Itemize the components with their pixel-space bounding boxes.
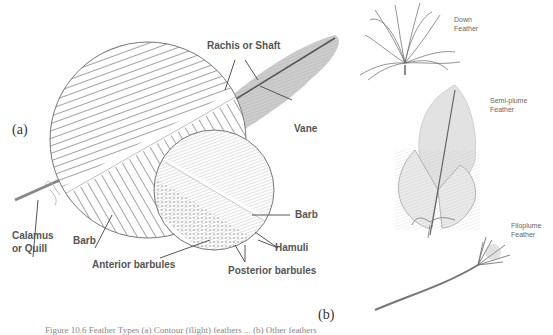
label-calamus-line1: Calamus bbox=[12, 230, 54, 241]
label-barb-left: Barb bbox=[73, 235, 96, 246]
label-rachis-or-shaft: Rachis or Shaft bbox=[207, 40, 280, 51]
label-posterior-barbules: Posterior barbules bbox=[228, 265, 316, 276]
panel-b-label: (b) bbox=[318, 307, 334, 323]
calamus-drawing bbox=[15, 180, 60, 200]
filoplume-feather-drawing bbox=[375, 237, 510, 310]
label-hamuli: Hamuli bbox=[275, 242, 308, 253]
label-filoplume-feather: Filoplume Feather bbox=[511, 221, 541, 239]
label-vane: Vane bbox=[294, 123, 317, 134]
semiplume-feather-drawing bbox=[395, 85, 480, 238]
label-semiplume-feather: Semi-plume Feather bbox=[490, 96, 527, 114]
panel-a-label: (a) bbox=[12, 122, 28, 138]
label-anterior-barbules: Anterior barbules bbox=[92, 259, 175, 270]
label-down-feather: Down Feather bbox=[454, 15, 478, 33]
label-calamus-line2: or Quill bbox=[12, 243, 47, 254]
label-barb-right: Barb bbox=[295, 209, 318, 220]
figure-caption: Figure 10.6 Feather Types (a) Contour (f… bbox=[45, 325, 317, 335]
down-feather-drawing bbox=[360, 3, 460, 80]
